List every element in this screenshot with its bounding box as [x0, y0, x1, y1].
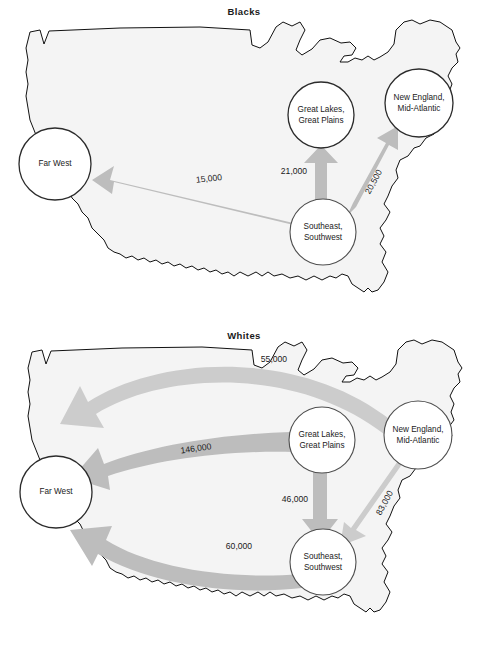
node-circle-new-england[interactable]	[385, 69, 453, 137]
node-label-great-lakes-line2: Great Plains	[299, 441, 344, 450]
node-label-southeast-line1: Southeast,	[303, 552, 342, 561]
flow-value-se-to-gl: 21,000	[281, 166, 308, 176]
flow-value-se-to-fw: 60,000	[226, 541, 253, 551]
node-far-west[interactable]: Far West	[20, 456, 92, 528]
node-label-great-lakes-line1: Great Lakes,	[298, 105, 345, 114]
node-label-far-west: Far West	[38, 159, 72, 168]
node-great-lakes[interactable]: Great Lakes, Great Plains	[288, 82, 354, 148]
node-circle-great-lakes[interactable]	[289, 407, 355, 473]
flow-value-ne-to-fw: 55,000	[261, 354, 288, 364]
node-label-great-lakes-line2: Great Plains	[298, 116, 343, 125]
node-circle-great-lakes[interactable]	[288, 82, 354, 148]
node-circle-new-england[interactable]	[384, 401, 452, 469]
node-label-new-england-line1: New England,	[393, 425, 444, 434]
node-label-great-lakes-line1: Great Lakes,	[299, 430, 346, 439]
us-map-outline	[26, 20, 460, 292]
flow-value-gl-to-se: 46,000	[282, 494, 309, 504]
node-far-west[interactable]: Far West	[19, 128, 91, 200]
node-label-southeast-line2: Southwest	[304, 233, 343, 242]
node-new-england[interactable]: New England, Mid-Atlantic	[385, 69, 453, 137]
node-circle-southeast[interactable]	[290, 529, 356, 595]
node-label-new-england-line1: New England,	[394, 93, 445, 102]
node-new-england[interactable]: New England, Mid-Atlantic	[384, 401, 452, 469]
panel-blacks: Blacks Far West Great Lakes, Gr	[0, 0, 488, 323]
node-circle-southeast[interactable]	[290, 199, 356, 265]
node-great-lakes[interactable]: Great Lakes, Great Plains	[289, 407, 355, 473]
node-southeast[interactable]: Southeast, Southwest	[290, 529, 356, 595]
node-label-new-england-line2: Mid-Atlantic	[397, 436, 440, 445]
panel-whites: Whites Far West	[0, 324, 488, 647]
map-blacks: Far West Great Lakes, Great Plains New E…	[0, 0, 488, 323]
node-southeast[interactable]: Southeast, Southwest	[290, 199, 356, 265]
node-label-far-west: Far West	[39, 487, 73, 496]
map-whites: Far West Great Lakes, Great Plains New E…	[0, 324, 488, 647]
node-label-southeast-line2: Southwest	[304, 563, 343, 572]
node-label-southeast-line1: Southeast,	[303, 222, 342, 231]
migration-flow-figure: Blacks Far West Great Lakes, Gr	[0, 0, 488, 647]
node-label-new-england-line2: Mid-Atlantic	[398, 104, 441, 113]
